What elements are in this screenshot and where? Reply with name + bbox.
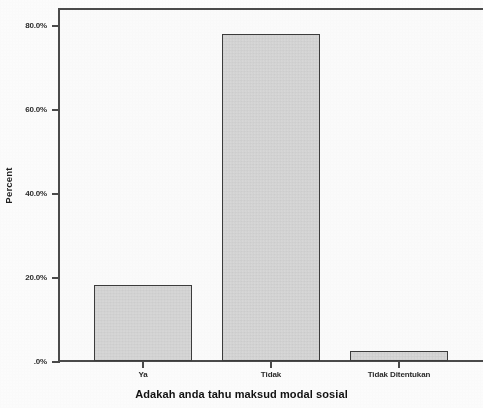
y-axis-tick-60 bbox=[52, 109, 60, 111]
y-axis-title: Percent bbox=[3, 156, 14, 216]
x-axis-tick-tidak-ditentukan bbox=[398, 361, 400, 368]
y-axis-tick-40 bbox=[52, 193, 60, 195]
bar-tidak bbox=[222, 34, 320, 361]
bar-tidak-ditentukan bbox=[350, 351, 448, 361]
y-axis-label-20: 20.0% bbox=[25, 273, 47, 282]
bar-ya bbox=[94, 285, 192, 361]
y-axis-label-80: 80.0% bbox=[25, 21, 47, 30]
x-axis-label-tidak-ditentukan: Tidak Ditentukan bbox=[368, 370, 431, 379]
y-axis-label-0: .0% bbox=[34, 357, 47, 366]
y-axis-tick-20 bbox=[52, 277, 60, 279]
y-axis-tick-80 bbox=[52, 25, 60, 27]
x-axis-label-tidak: Tidak bbox=[261, 370, 281, 379]
x-axis-tick-ya bbox=[142, 361, 144, 368]
x-axis-title: Adakah anda tahu maksud modal sosial bbox=[0, 388, 483, 400]
x-axis-label-ya: Ya bbox=[138, 370, 147, 379]
bar-chart-figure: Percent 80.0% 60.0% 40.0% 20.0% .0% Ya T… bbox=[0, 0, 483, 408]
y-axis-tick-0 bbox=[52, 361, 60, 363]
y-axis-label-40: 40.0% bbox=[25, 189, 47, 198]
x-axis-tick-tidak bbox=[270, 361, 272, 368]
y-axis-label-60: 60.0% bbox=[25, 105, 47, 114]
